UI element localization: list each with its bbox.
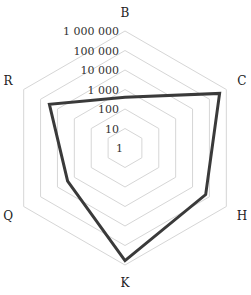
axis-label-b: B bbox=[121, 6, 130, 20]
axis-label-q: Q bbox=[3, 209, 13, 223]
grid-rings bbox=[24, 31, 227, 265]
tick-label: 1 000 000 bbox=[63, 25, 119, 38]
tick-label: 100 bbox=[98, 103, 119, 116]
tick-label: 100 000 bbox=[74, 45, 120, 58]
grid-ring bbox=[57, 70, 192, 226]
axis-label-h: H bbox=[237, 209, 247, 223]
grid-ring bbox=[91, 109, 159, 187]
tick-label: 10 bbox=[105, 123, 119, 136]
tick-label: 1 bbox=[116, 142, 123, 155]
grid-ring bbox=[24, 31, 227, 265]
grid-ring bbox=[74, 90, 175, 207]
axis-label-k: K bbox=[121, 276, 131, 290]
tick-labels: 1101001 00010 000100 0001 000 000 bbox=[63, 25, 123, 155]
axis-label-r: R bbox=[4, 74, 14, 88]
axis-label-c: C bbox=[237, 74, 246, 88]
tick-label: 10 000 bbox=[81, 64, 120, 77]
axis-labels: BCHKQR bbox=[3, 6, 247, 290]
grid-ring bbox=[41, 51, 210, 246]
radar-chart: 1101001 00010 000100 0001 000 000 BCHKQR bbox=[0, 0, 251, 295]
tick-label: 1 000 bbox=[88, 84, 120, 97]
